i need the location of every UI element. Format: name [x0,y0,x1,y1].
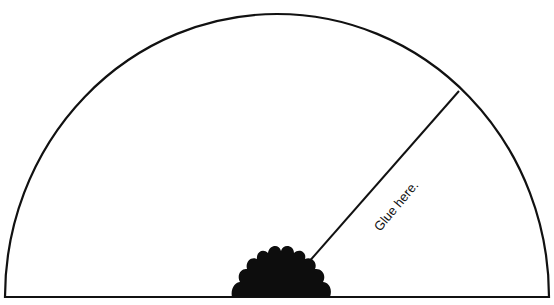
semicircle-template: Glue here. [0,0,554,305]
